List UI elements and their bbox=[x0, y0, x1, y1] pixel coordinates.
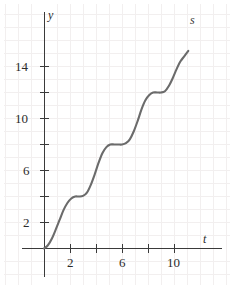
y-tick-label-10: 10 bbox=[15, 112, 28, 125]
x-tick-label-10: 10 bbox=[167, 256, 180, 269]
y-axis-label: y bbox=[48, 9, 53, 21]
curve-label-s: s bbox=[190, 14, 195, 26]
x-axis-label: t bbox=[203, 233, 206, 245]
y-tick-label-6: 6 bbox=[23, 164, 30, 177]
x-tick-label-6: 6 bbox=[119, 256, 126, 269]
plot-area bbox=[0, 0, 232, 289]
chart-figure: 2 6 10 14 2 6 10 y t s bbox=[0, 0, 232, 289]
curve-s-path bbox=[44, 51, 188, 249]
y-tick-label-14: 14 bbox=[15, 60, 28, 73]
x-tick-label-2: 2 bbox=[67, 256, 74, 269]
y-tick-label-2: 2 bbox=[23, 216, 30, 229]
